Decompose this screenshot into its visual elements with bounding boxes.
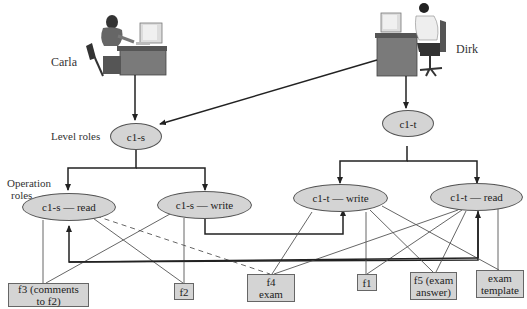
- file-label-line2: answer): [416, 286, 451, 298]
- operation-role-c1-t-write: c1-t — write: [293, 184, 388, 212]
- node-label: c1-s — read: [42, 201, 96, 213]
- file-label-line1: f2: [179, 286, 188, 298]
- node-label: c1-s: [127, 131, 145, 143]
- file-f4: f4 exam: [247, 274, 295, 302]
- carla-label: Carla: [51, 56, 77, 68]
- node-label: c1-t — write: [312, 192, 368, 204]
- file-label-line2: template: [481, 284, 519, 296]
- operation-role-c1-s-read: c1-s — read: [22, 193, 116, 221]
- file-label-line1: f3 (comments: [18, 283, 79, 295]
- level-roles-label: Level roles: [51, 130, 100, 142]
- file-f3: f3 (comments to f2): [8, 283, 89, 307]
- file-f2: f2: [174, 283, 194, 300]
- file-label-line1: f4: [266, 276, 275, 288]
- dirk-illustration: [375, 3, 446, 76]
- operation-role-c1-t-read: c1-t — read: [430, 183, 523, 211]
- carla-illustration: [86, 15, 167, 76]
- level-role-c1-s: c1-s: [110, 123, 162, 150]
- node-label: c1-t: [399, 118, 416, 130]
- file-f1: f1: [357, 274, 377, 291]
- operation-roles-label-line1: Operation: [7, 177, 51, 189]
- file-label-line1: f5 (exam: [414, 274, 453, 286]
- file-label-line1: f1: [362, 277, 371, 289]
- file-exam-template: exam template: [476, 270, 524, 298]
- node-label: c1-t — read: [450, 191, 503, 203]
- node-label: c1-s — write: [176, 199, 233, 211]
- dirk-label: Dirk: [456, 43, 478, 55]
- file-f5: f5 (exam answer): [410, 272, 457, 300]
- file-label-line2: exam: [259, 288, 283, 300]
- file-label-line2: to f2): [36, 295, 60, 307]
- diagram-connectors: [0, 0, 527, 309]
- level-role-c1-t: c1-t: [382, 110, 434, 137]
- file-label-line1: exam: [488, 272, 512, 284]
- operation-role-c1-s-write: c1-s — write: [157, 191, 252, 219]
